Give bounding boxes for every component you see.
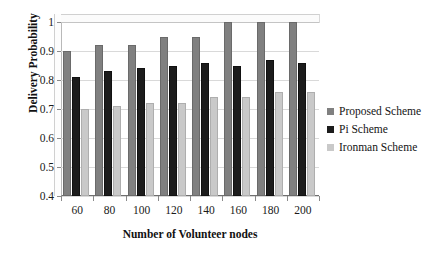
bar: [224, 22, 232, 196]
x-tick-label: 200: [283, 204, 323, 216]
bar-group: [257, 22, 283, 196]
bar: [137, 68, 145, 196]
x-tick-mark: [158, 196, 159, 201]
x-tick-mark: [93, 196, 94, 201]
plot-area: 0.40.50.60.70.80.91 60801001201401601802…: [61, 22, 319, 196]
legend-swatch-icon: [327, 108, 334, 115]
bar-series-container: [61, 22, 319, 196]
bar-group: [128, 22, 154, 196]
x-tick-mark: [255, 196, 256, 201]
legend-label: Ironman Scheme: [339, 141, 417, 153]
bar-group: [224, 22, 250, 196]
legend-swatch-icon: [327, 126, 334, 133]
bar: [81, 109, 89, 196]
y-tick-label: 0.5: [18, 161, 61, 173]
bar: [266, 60, 274, 196]
bar: [104, 71, 112, 196]
bar: [63, 51, 71, 196]
bar: [113, 106, 121, 196]
bar: [169, 66, 177, 197]
y-tick-label: 0.4: [18, 190, 61, 202]
bar: [95, 45, 103, 196]
chart-legend: Proposed SchemePi SchemeIronman Scheme: [327, 102, 445, 156]
bar-group: [160, 22, 186, 196]
x-tick-mark: [126, 196, 127, 201]
bar: [160, 37, 168, 197]
x-tick-mark: [287, 196, 288, 201]
bar: [289, 22, 297, 196]
legend-label: Proposed Scheme: [339, 105, 421, 117]
y-tick-label: 0.9: [18, 45, 61, 57]
y-tick-label: 0.7: [18, 103, 61, 115]
y-tick-label: 0.8: [18, 74, 61, 86]
bar: [128, 45, 136, 196]
legend-label: Pi Scheme: [339, 123, 388, 135]
bar: [210, 97, 218, 196]
delivery-probability-bar-chart: Delivery Probability 0.40.50.60.70.80.91…: [0, 0, 446, 255]
bar-group: [192, 22, 218, 196]
bar-group: [63, 22, 89, 196]
bar: [233, 66, 241, 197]
bar: [201, 63, 209, 196]
bar: [178, 103, 186, 196]
bar: [275, 92, 283, 196]
bar: [192, 37, 200, 197]
x-tick-mark: [190, 196, 191, 201]
bar: [307, 92, 315, 196]
bar: [72, 77, 80, 196]
legend-item[interactable]: Proposed Scheme: [327, 102, 445, 120]
legend-swatch-icon: [327, 144, 334, 151]
x-axis-title: Number of Volunteer nodes: [55, 228, 325, 240]
x-tick-mark: [319, 196, 320, 201]
x-tick-mark: [222, 196, 223, 201]
bar: [298, 63, 306, 196]
bar: [257, 22, 265, 196]
x-tick-mark: [61, 196, 62, 201]
bar: [146, 103, 154, 196]
bar: [242, 97, 250, 196]
legend-item[interactable]: Pi Scheme: [327, 120, 445, 138]
bar-group: [95, 22, 121, 196]
y-tick-label: 0.6: [18, 132, 61, 144]
legend-item[interactable]: Ironman Scheme: [327, 138, 445, 156]
y-tick-label: 1: [18, 16, 61, 28]
bar-group: [289, 22, 315, 196]
